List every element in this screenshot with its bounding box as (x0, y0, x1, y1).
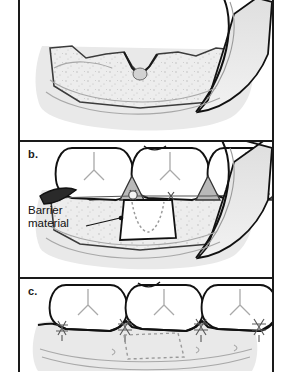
barrier-material-line2: material (28, 217, 69, 230)
panel-c-label: c. (28, 285, 38, 297)
barrier-membrane (120, 200, 176, 240)
barrier-material-line1: Barrier (28, 204, 69, 217)
panel-a-artwork (20, 0, 272, 140)
panel-a (20, 0, 272, 140)
panel-b: b. (20, 142, 272, 277)
defect-base (133, 68, 147, 80)
barrier-leader-dot (119, 216, 124, 221)
figure-frame: b. (18, 0, 274, 372)
barrier-material-callout: Barrier material (28, 204, 69, 229)
figure-root: b. (0, 0, 290, 389)
panel-c: c. (20, 279, 272, 372)
panel-c-artwork (20, 279, 272, 372)
panel-b-label: b. (28, 148, 38, 160)
